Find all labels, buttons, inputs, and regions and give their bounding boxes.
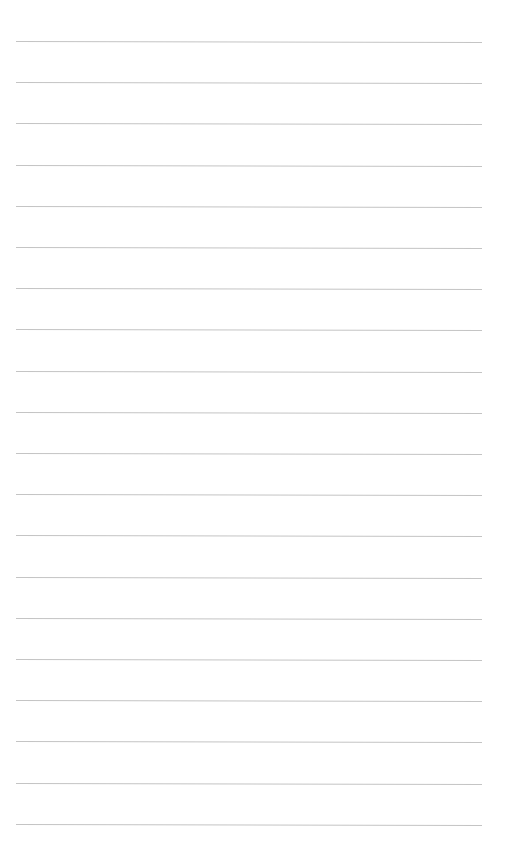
ruled-line: [16, 659, 482, 661]
ruled-line: [16, 618, 482, 620]
ruled-line: [16, 824, 482, 826]
ruled-line: [16, 165, 482, 167]
ruled-line: [16, 535, 482, 537]
ruled-line: [16, 123, 482, 125]
ruled-line: [16, 577, 482, 579]
ruled-line: [16, 371, 482, 373]
ruled-line: [16, 741, 482, 743]
lined-paper-page: [0, 0, 510, 862]
ruled-line: [16, 288, 482, 290]
ruled-line: [16, 494, 482, 496]
ruled-line: [16, 783, 482, 785]
ruled-line: [16, 453, 482, 455]
ruled-line: [16, 329, 482, 331]
ruled-line: [16, 82, 482, 84]
ruled-line: [16, 412, 482, 414]
ruled-line: [16, 700, 482, 702]
ruled-line: [16, 41, 482, 43]
ruled-line: [16, 247, 482, 249]
ruled-line: [16, 206, 482, 208]
